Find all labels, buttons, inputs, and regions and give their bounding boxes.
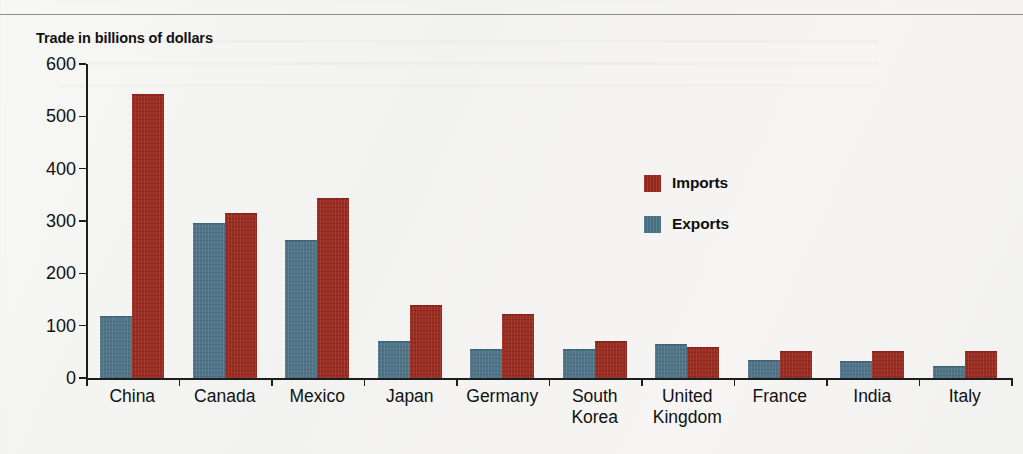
y-axis-tick-400 xyxy=(79,168,86,170)
y-axis-label-400: 400 xyxy=(46,158,76,179)
bar-imports[interactable] xyxy=(595,341,627,378)
x-axis-category-label: Japan xyxy=(364,386,457,407)
y-axis-label-200: 200 xyxy=(46,263,76,284)
bar-group xyxy=(470,64,534,378)
bar-imports[interactable] xyxy=(502,314,534,378)
x-axis-tick xyxy=(919,378,921,386)
bar-imports[interactable] xyxy=(965,351,997,378)
x-axis-tick xyxy=(641,378,643,386)
bar-exports[interactable] xyxy=(840,361,872,378)
x-axis-category-label: South Korea xyxy=(549,386,642,428)
x-axis-tick xyxy=(456,378,458,386)
x-axis-category-label: China xyxy=(86,386,179,407)
x-axis-category-label: United Kingdom xyxy=(641,386,734,428)
x-axis-tick xyxy=(734,378,736,386)
y-axis-label-600: 600 xyxy=(46,54,76,75)
bar-imports[interactable] xyxy=(225,213,257,378)
legend-item-exports[interactable]: Exports xyxy=(644,215,729,233)
legend-swatch-imports-icon xyxy=(644,175,661,192)
bar-group xyxy=(285,64,349,378)
y-axis-label-300: 300 xyxy=(46,211,76,232)
bar-imports[interactable] xyxy=(687,347,719,378)
bar-exports[interactable] xyxy=(470,349,502,378)
x-axis-tick xyxy=(826,378,828,386)
bar-exports[interactable] xyxy=(378,341,410,378)
x-axis-tick xyxy=(549,378,551,386)
y-axis-tick-100 xyxy=(79,325,86,327)
top-divider-rule xyxy=(0,14,1023,15)
bar-exports[interactable] xyxy=(563,349,595,378)
bar-group xyxy=(840,64,904,378)
y-axis-tick-500 xyxy=(79,116,86,118)
x-axis-category-label: India xyxy=(826,386,919,407)
legend-label-imports: Imports xyxy=(672,174,728,192)
bar-exports[interactable] xyxy=(655,344,687,378)
x-axis-tick xyxy=(179,378,181,386)
y-axis-label-100: 100 xyxy=(46,315,76,336)
legend-item-imports[interactable]: Imports xyxy=(644,174,729,192)
x-axis-category-label: Italy xyxy=(919,386,1012,407)
x-axis-category-label: Canada xyxy=(179,386,272,407)
y-axis-label-500: 500 xyxy=(46,106,76,127)
bar-exports[interactable] xyxy=(193,223,225,378)
bar-group xyxy=(563,64,627,378)
x-axis-category-label: Mexico xyxy=(271,386,364,407)
bar-imports[interactable] xyxy=(410,305,442,378)
y-axis-tick-600 xyxy=(79,63,86,65)
bar-group xyxy=(193,64,257,378)
bar-imports[interactable] xyxy=(317,198,349,378)
bar-exports[interactable] xyxy=(100,316,132,378)
bar-imports[interactable] xyxy=(780,351,812,378)
x-axis-tick xyxy=(86,378,88,386)
y-axis-label-0: 0 xyxy=(66,368,76,389)
x-axis-category-label: Germany xyxy=(456,386,549,407)
bar-imports[interactable] xyxy=(132,94,164,378)
bar-group xyxy=(378,64,442,378)
chart-title: Trade in billions of dollars xyxy=(36,30,213,46)
bar-group xyxy=(100,64,164,378)
bar-imports[interactable] xyxy=(872,351,904,378)
legend-label-exports: Exports xyxy=(672,215,729,233)
x-axis-tick xyxy=(271,378,273,386)
x-axis-tick xyxy=(1011,378,1013,386)
bar-exports[interactable] xyxy=(933,366,965,378)
y-axis-tick-0 xyxy=(79,377,86,379)
y-axis-tick-labels: 0100200300400500600 xyxy=(0,64,76,378)
x-axis-category-label: France xyxy=(734,386,827,407)
legend-swatch-exports-icon xyxy=(644,216,661,233)
chart-legend: Imports Exports xyxy=(644,174,729,256)
y-axis-tick-200 xyxy=(79,273,86,275)
y-axis-line xyxy=(86,64,88,378)
bar-exports[interactable] xyxy=(748,360,780,378)
x-axis-tick xyxy=(364,378,366,386)
y-axis-tick-300 xyxy=(79,220,86,222)
bar-group xyxy=(933,64,997,378)
bar-group xyxy=(748,64,812,378)
bar-exports[interactable] xyxy=(285,240,317,378)
plot-area: ChinaCanadaMexicoJapanGermanySouth Korea… xyxy=(86,64,1011,378)
